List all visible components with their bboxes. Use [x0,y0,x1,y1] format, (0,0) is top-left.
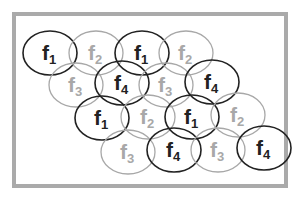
cell-label: f1 [134,41,148,67]
cell-label: f1 [94,106,108,132]
cell-label: f3 [158,73,172,99]
cell-label: f2 [140,105,154,131]
cell-label: f4 [166,138,181,164]
cell-label: f1 [184,105,198,131]
cell-label: f3 [210,138,224,164]
cell-label: f3 [120,140,134,166]
cell-label: f2 [88,41,102,67]
cell-f2: f2 [159,31,213,75]
cell-label: f1 [42,41,56,67]
cell-label: f3 [68,73,82,99]
cell-label: f4 [114,71,129,97]
frequency-reuse-diagram: f1f2f1f2f3f4f3f4f1f2f1f2f3f4f3f4 [0,0,304,199]
cell-label: f2 [178,41,192,67]
cell-label: f4 [204,70,219,96]
cell-label: f2 [230,103,244,129]
cell-label: f4 [256,136,271,162]
